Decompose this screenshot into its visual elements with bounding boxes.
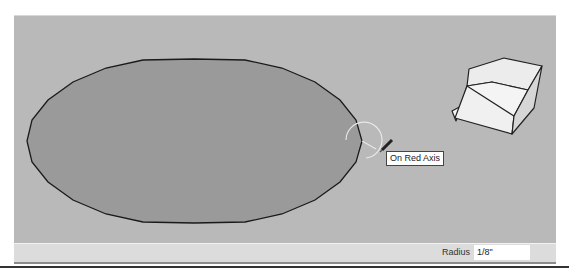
measurement-input[interactable]: 1/8": [474, 245, 530, 260]
drawing-viewport[interactable]: On Red Axis: [14, 15, 556, 244]
scene-canvas[interactable]: [14, 16, 556, 244]
window-bottom-border: [0, 266, 569, 268]
box-solid[interactable]: [452, 58, 542, 134]
measurement-label: Radius: [442, 247, 470, 257]
status-bar: Radius 1/8": [14, 243, 556, 264]
inference-tooltip: On Red Axis: [386, 151, 444, 166]
circle-face[interactable]: [27, 59, 362, 223]
